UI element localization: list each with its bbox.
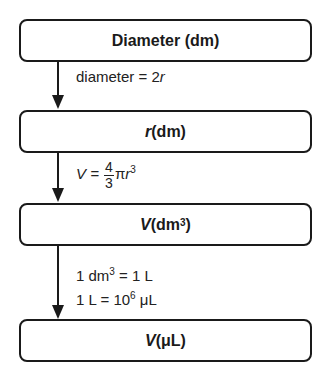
diameter-box-label: Diameter (dm) [112, 32, 220, 50]
down-arrow-icon [52, 188, 64, 202]
arrow-shaft-1 [57, 62, 59, 96]
arrow-shaft-2 [57, 153, 59, 189]
volume-ul-box: V (μL) [19, 319, 312, 362]
radius-box: r (dm) [19, 110, 312, 153]
arrow-shaft-3 [57, 246, 59, 306]
step-diameter-formula: diameter = 2r [76, 68, 165, 85]
conversion-line-1: 1 dm3 = 1 L [76, 262, 157, 286]
down-arrow-icon [52, 305, 64, 319]
radius-unit: (dm) [151, 123, 186, 141]
volume-var: V [145, 332, 156, 350]
down-arrow-icon [52, 95, 64, 109]
fraction: 43 [104, 160, 114, 191]
diameter-box: Diameter (dm) [19, 19, 312, 62]
step-unit-conversion: 1 dm3 = 1 L 1 L = 106 μL [76, 262, 157, 310]
volume-dm3-box: V (dm3) [19, 203, 312, 246]
conversion-line-2: 1 L = 106 μL [76, 286, 157, 310]
step-volume-formula: V = 43πr3 [76, 160, 136, 191]
cutoff-heading: • [96, 0, 102, 6]
volume-var: V [140, 216, 151, 234]
